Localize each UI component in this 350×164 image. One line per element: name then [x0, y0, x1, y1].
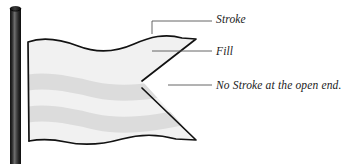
flagpole-group: [10, 6, 21, 164]
flag-group: [20, 36, 205, 144]
leader-line-stroke: [152, 21, 212, 34]
annotation-label-stroke: Stroke: [216, 14, 246, 26]
flagpole-shaft: [10, 8, 21, 164]
annotation-label-open-end: No Stroke at the open end.: [216, 80, 341, 92]
flag-diagram: Stroke Fill No Stroke at the open end.: [0, 0, 350, 164]
annotation-label-fill: Fill: [216, 46, 233, 58]
